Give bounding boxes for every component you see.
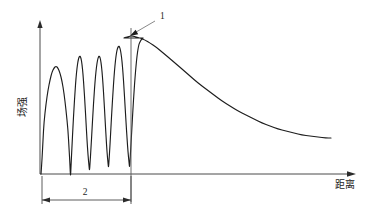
span-dimension: 2 xyxy=(42,176,131,204)
peak-callout: 1 xyxy=(130,11,165,36)
y-axis-arrow-icon xyxy=(37,20,42,28)
dimension-label-2: 2 xyxy=(83,187,88,197)
callout-label-1: 1 xyxy=(160,11,165,21)
field-strength-curve xyxy=(41,36,331,175)
figure-container: 1 2 场强 距离 xyxy=(0,0,375,212)
dimension-arrow-left-icon xyxy=(42,197,50,202)
x-axis-arrow-icon xyxy=(347,171,356,177)
x-axis-label: 距离 xyxy=(335,178,355,190)
y-axis xyxy=(37,20,42,174)
field-strength-distance-chart: 1 2 场强 距离 xyxy=(0,0,375,212)
y-axis-label: 场强 xyxy=(16,97,28,117)
x-axis xyxy=(40,171,356,177)
dimension-arrow-right-icon xyxy=(123,197,131,202)
